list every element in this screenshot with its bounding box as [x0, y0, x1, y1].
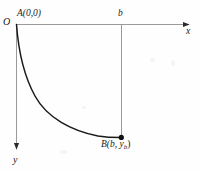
brachistochrone-curve	[17, 25, 121, 138]
origin-label: O	[3, 17, 10, 27]
b-tick-label: b	[118, 9, 123, 19]
figure-canvas	[0, 0, 200, 172]
point-b-name: B(	[101, 139, 110, 149]
x-axis-label: x	[186, 27, 190, 37]
point-b-close-paren: )	[127, 139, 130, 149]
point-a-label: A(0,0)	[17, 9, 41, 19]
brachistochrone-figure: O A(0,0) b x y B(b, yb)	[0, 0, 200, 172]
point-b-label: B(b, yb)	[101, 140, 130, 151]
y-axis-label: y	[13, 155, 17, 165]
